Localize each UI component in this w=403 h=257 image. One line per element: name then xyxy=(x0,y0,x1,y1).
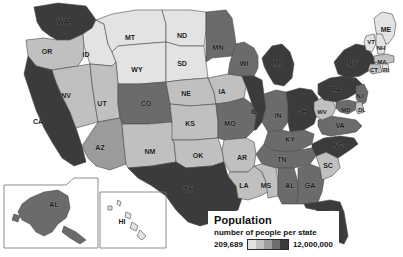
state-south-dakota[interactable] xyxy=(166,42,208,82)
legend-color-ramp xyxy=(247,239,289,250)
state-nebraska[interactable] xyxy=(166,78,216,106)
state-missouri[interactable] xyxy=(216,98,256,140)
state-label-arkansas: AR xyxy=(237,154,247,161)
state-label-missouri: MO xyxy=(224,120,236,127)
legend-max-value: 12,000,000 xyxy=(293,240,333,249)
state-label-massachusetts: MA xyxy=(377,59,387,65)
map-legend: Population number of people per state 20… xyxy=(208,211,339,255)
state-label-texas: TX xyxy=(184,186,193,193)
state-label-oklahoma: OK xyxy=(193,152,204,159)
state-label-south-dakota: SD xyxy=(177,60,187,67)
state-label-maryland: MD xyxy=(341,107,351,113)
legend-scale: 209,689 12,000,000 xyxy=(214,239,333,250)
state-minnesota[interactable] xyxy=(206,10,236,62)
state-label-new-york: NY xyxy=(347,60,357,67)
state-label-california: CA xyxy=(33,118,43,125)
legend-swatch-2 xyxy=(256,240,264,249)
state-label-pennsylvania: PA xyxy=(331,86,340,93)
state-label-connecticut: CT xyxy=(370,67,378,73)
state-label-hawaii: HI xyxy=(119,218,126,225)
state-north-dakota[interactable] xyxy=(162,10,206,46)
inset-box-hawaii xyxy=(100,192,166,248)
state-label-iowa: IA xyxy=(219,88,226,95)
state-label-mississippi: MS xyxy=(261,182,272,189)
state-label-north-carolina: NC xyxy=(333,142,343,149)
state-label-alabama: AL xyxy=(285,182,295,189)
state-label-ohio: OH xyxy=(297,108,308,115)
us-population-map: WAORCANVIDMTWYUTCOAZNMNDSDNEKSOKTXMNIAMO… xyxy=(0,0,403,257)
state-label-wisconsin: WI xyxy=(240,60,249,67)
state-label-georgia: GA xyxy=(305,182,316,189)
state-label-new-jersey: NJ xyxy=(356,93,364,99)
state-label-west-virginia: WV xyxy=(317,109,327,115)
state-label-colorado: CO xyxy=(141,100,152,107)
legend-swatch-5 xyxy=(280,240,288,249)
state-label-new-hampshire: NH xyxy=(377,45,386,51)
legend-swatch-1 xyxy=(248,240,256,249)
state-label-virginia: VA xyxy=(335,122,344,129)
state-alaska[interactable] xyxy=(12,190,86,244)
legend-swatch-3 xyxy=(264,240,272,249)
state-label-washington: WA xyxy=(57,18,68,25)
state-label-minnesota: MN xyxy=(213,44,224,51)
state-label-rhode-island: RI xyxy=(383,67,389,73)
state-label-indiana: IN xyxy=(275,112,282,119)
state-label-kansas: KS xyxy=(185,120,195,127)
state-label-utah: UT xyxy=(97,100,107,107)
legend-subtitle: number of people per state xyxy=(214,228,317,237)
state-label-alaska: AL xyxy=(49,201,59,208)
legend-min-value: 209,689 xyxy=(214,240,243,249)
insets-layer xyxy=(4,178,166,248)
state-label-montana: MT xyxy=(125,34,136,41)
state-label-north-dakota: ND xyxy=(177,32,187,39)
state-label-nebraska: NE xyxy=(181,90,191,97)
state-label-wyoming: WY xyxy=(131,66,143,73)
state-label-vermont: VT xyxy=(367,39,375,45)
state-new-mexico[interactable] xyxy=(122,122,176,168)
state-label-kentucky: KY xyxy=(285,136,295,143)
state-wyoming[interactable] xyxy=(112,42,166,84)
state-label-michigan: MI xyxy=(274,60,282,67)
state-label-louisiana: LA xyxy=(239,182,248,189)
state-label-oregon: OR xyxy=(42,48,53,55)
state-hawaii[interactable] xyxy=(108,200,146,240)
state-label-nevada: NV xyxy=(61,92,71,99)
state-label-tennessee: TN xyxy=(277,156,286,163)
state-label-illinois: IL xyxy=(251,108,258,115)
choropleth-map-figure: WAORCANVIDMTWYUTCOAZNMNDSDNEKSOKTXMNIAMO… xyxy=(0,0,403,257)
legend-title: Population xyxy=(214,214,272,226)
state-label-arizona: AZ xyxy=(95,144,105,151)
state-label-maine: ME xyxy=(381,26,392,33)
state-label-new-mexico: NM xyxy=(145,148,156,155)
state-label-idaho: ID xyxy=(83,51,90,58)
state-label-delaware: DL xyxy=(358,107,366,113)
state-label-south-carolina: SC xyxy=(323,162,333,169)
legend-swatch-4 xyxy=(272,240,280,249)
